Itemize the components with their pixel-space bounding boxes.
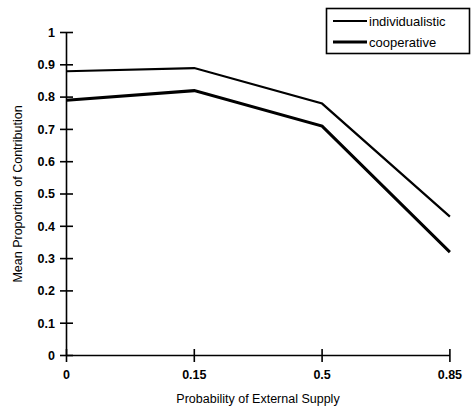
- legend-label-individualistic: individualistic: [369, 14, 446, 29]
- x-tick-label: 0: [63, 368, 70, 382]
- x-axis-title: Probability of External Supply: [176, 392, 340, 406]
- chart-background: [0, 0, 472, 413]
- y-tick-label: 0.6: [38, 155, 55, 169]
- y-tick-label: 0.2: [38, 284, 55, 298]
- legend-label-cooperative: cooperative: [369, 35, 436, 50]
- y-tick-label: 0.5: [38, 187, 55, 201]
- y-tick-label: 0.1: [38, 317, 55, 331]
- y-axis-title: Mean Proportion of Contribution: [11, 105, 25, 282]
- x-tick-label: 0.5: [313, 368, 330, 382]
- y-tick-label: 1: [48, 26, 55, 40]
- y-tick-label: 0.8: [38, 90, 55, 104]
- y-tick-label: 0.4: [38, 220, 55, 234]
- y-tick-label: 0.9: [38, 58, 55, 72]
- x-tick-label: 0.15: [182, 368, 206, 382]
- y-tick-label: 0.7: [38, 123, 55, 137]
- chart-legend: individualistic cooperative: [327, 9, 470, 54]
- y-tick-label: 0: [48, 349, 55, 363]
- chart-figure: 1 0.9 0.8 0.7 0.6 0.5 0.4 0.3 0.2 0.1 0 …: [0, 0, 472, 413]
- line-chart: 1 0.9 0.8 0.7 0.6 0.5 0.4 0.3 0.2 0.1 0 …: [0, 0, 472, 413]
- x-tick-label: 0.85: [438, 368, 462, 382]
- y-tick-label: 0.3: [38, 252, 55, 266]
